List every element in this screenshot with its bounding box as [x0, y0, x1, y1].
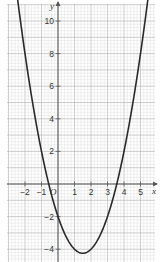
x-tick-label: −2 — [20, 187, 30, 197]
x-tick-label: 4 — [122, 187, 127, 197]
y-tick-label: 6 — [49, 81, 54, 91]
grid — [7, 4, 155, 262]
x-tick-label: 3 — [105, 187, 110, 197]
y-axis-label: y — [49, 1, 54, 11]
parabola-chart: −2−112345−4−2246810 x y O — [0, 0, 161, 262]
parabola-curve — [18, 0, 148, 253]
y-tick-label: −2 — [44, 212, 54, 222]
x-tick-label: 1 — [72, 187, 77, 197]
x-axis-label: x — [151, 186, 156, 196]
y-tick-label: 8 — [49, 49, 54, 59]
x-tick-label: 5 — [138, 187, 143, 197]
y-tick-label: 2 — [49, 146, 54, 156]
x-tick-label: −1 — [37, 187, 47, 197]
y-tick-label: 10 — [45, 16, 55, 26]
x-tick-label: 2 — [89, 187, 94, 197]
y-tick-label: 4 — [49, 114, 54, 124]
origin-label: O — [50, 187, 57, 197]
axes — [7, 1, 158, 262]
y-tick-label: −4 — [44, 244, 54, 254]
